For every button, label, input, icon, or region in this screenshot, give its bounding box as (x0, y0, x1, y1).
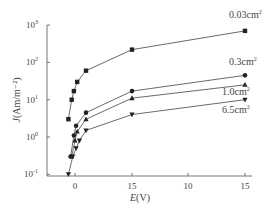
y-axis: 10310210110010-1 (24, 19, 50, 179)
circle-marker (84, 110, 89, 115)
y-tick-label: 101 (26, 94, 38, 105)
square-marker (72, 89, 76, 93)
series-label: 1.0cm2 (222, 86, 250, 97)
series-label: 0.3cm2 (229, 56, 257, 67)
y-tick-label: 103 (26, 19, 38, 30)
square-marker (70, 98, 74, 102)
y-tick-label: 100 (26, 131, 38, 142)
x-axis: 0151015 (47, 173, 252, 191)
series-label: 6.5cm2 (222, 104, 250, 115)
series-1.0cm: 1.0cm2 (69, 82, 250, 158)
square-marker (84, 68, 88, 72)
x-tick-label: 15 (241, 181, 251, 191)
series-label: 0.03cm2 (229, 9, 262, 20)
triangle-down-marker (74, 146, 79, 151)
square-marker (66, 117, 70, 121)
circle-marker (243, 73, 248, 78)
x-axis-title: E(V) (129, 192, 150, 204)
chart: 10310210110010-1 0151015 0.03cm20.3cm21.… (0, 0, 268, 217)
square-marker (243, 29, 247, 33)
y-axis-title: J(Am/m⁻²) (11, 78, 23, 123)
x-tick-label: 15 (128, 181, 138, 191)
square-marker (75, 80, 79, 84)
triangle-down-marker (77, 139, 82, 144)
circle-marker (74, 123, 79, 128)
x-tick-label: 10 (184, 181, 194, 191)
square-marker (130, 47, 134, 51)
plot-area: 0.03cm20.3cm21.0cm26.5cm2 (66, 9, 262, 177)
y-tick-label: 102 (26, 56, 38, 67)
circle-marker (130, 89, 135, 94)
x-tick-label: 0 (73, 181, 78, 191)
y-tick-label: 10-1 (24, 168, 38, 179)
